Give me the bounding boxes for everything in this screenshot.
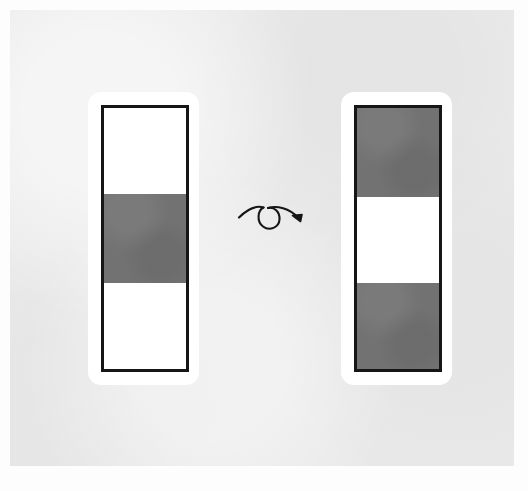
figure-canvas <box>0 0 528 491</box>
result-pattern-strip <box>354 105 442 372</box>
result-band-0 <box>357 108 439 197</box>
source-pattern-card[interactable] <box>88 92 199 385</box>
source-band-2 <box>104 283 186 369</box>
arrowhead-icon <box>293 215 303 222</box>
result-pattern-card[interactable] <box>341 92 452 385</box>
source-band-0 <box>104 108 186 194</box>
source-band-1 <box>104 194 186 283</box>
curved-loop-arrow-right-icon <box>236 196 312 240</box>
loop-arrow <box>236 196 312 240</box>
result-band-2 <box>357 283 439 369</box>
result-band-1 <box>357 197 439 283</box>
source-pattern-strip <box>101 105 189 372</box>
